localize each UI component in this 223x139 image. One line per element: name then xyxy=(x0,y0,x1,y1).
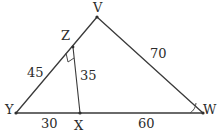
vertex-label-v: V xyxy=(93,1,102,14)
measure-label-yx: 30 xyxy=(41,117,58,130)
segment-zx xyxy=(73,47,80,113)
vertex-label-y: Y xyxy=(5,103,14,116)
vertex-label-x: X xyxy=(74,119,83,132)
measure-label-vw: 70 xyxy=(150,47,167,60)
vertex-label-z: Z xyxy=(61,29,70,42)
measure-label-xw: 60 xyxy=(138,117,155,130)
measure-label-zx: 35 xyxy=(80,69,97,82)
vertex-dot-y xyxy=(14,111,17,114)
geometry-figure: V Z Y X W 45 35 70 30 60 xyxy=(0,0,223,139)
measure-label-yz: 45 xyxy=(27,66,44,79)
vertex-label-w: W xyxy=(203,103,216,116)
vertex-dot-v xyxy=(95,15,98,18)
segment-vw xyxy=(97,17,203,113)
vertex-dot-x xyxy=(78,111,81,114)
right-angle-marker-z xyxy=(66,53,74,62)
vertex-dot-z xyxy=(72,46,75,49)
